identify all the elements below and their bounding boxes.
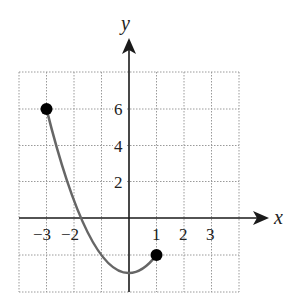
x-tick-labels: −3 −2 1 2 3 [33,225,215,244]
y-tick-label: 4 [114,137,123,156]
y-tick-label: 6 [114,100,123,119]
x-tick-label: 2 [179,225,188,244]
axes [19,50,258,292]
x-tick-label: −2 [61,225,79,244]
y-axis-label: y [119,12,130,35]
y-tick-labels: 6 4 2 [113,100,127,192]
x-axis-label: x [273,206,283,228]
y-tick-label: 2 [114,173,123,192]
function-graph: x y −3 −2 1 2 3 6 4 2 [0,0,291,304]
x-tick-label: 3 [206,225,215,244]
x-tick-label: −3 [33,225,51,244]
end-point [151,249,163,261]
start-point [41,103,53,115]
function-curve [47,109,157,273]
x-tick-label: 1 [152,225,161,244]
